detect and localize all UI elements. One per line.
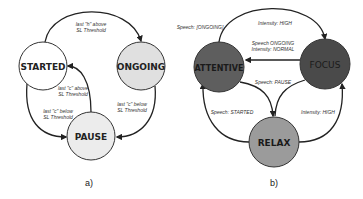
caption-a: a) — [85, 178, 93, 188]
svg-text:RELAX: RELAX — [258, 138, 291, 148]
svg-text:ONGOING: ONGOING — [117, 62, 166, 72]
node-started: STARTED — [19, 42, 67, 90]
label-focus-to-attentive: Speech ONGOINGIntensity: NORMAL — [252, 40, 295, 52]
label-self-attentive: Speech: [ONGOING] — [177, 24, 224, 30]
label-started-to-ongoing: last "h" aboveSL Threshold — [76, 21, 107, 33]
node-attentive: ATTENTIVE — [194, 42, 244, 92]
diagram-b: Speech: [ONGOING] Intensity: HIGH Speech… — [177, 9, 350, 188]
node-ongoing: ONGOING — [117, 42, 166, 90]
node-pause: PAUSE — [67, 112, 115, 160]
label-to-relax: Speech: PAUSE — [255, 79, 292, 85]
svg-text:FOCUS: FOCUS — [310, 60, 341, 70]
svg-text:ATTENTIVE: ATTENTIVE — [195, 64, 244, 73]
diagram-a: last "h" aboveSL Threshold last "c" abov… — [19, 12, 165, 188]
label-relax-to-attentive: Speech: STARTED — [211, 109, 254, 115]
label-relax-to-focus: Intensity: HIGH — [301, 109, 335, 115]
label-attentive-to-focus: Intensity: HIGH — [258, 20, 292, 26]
caption-b: b) — [270, 178, 278, 188]
node-focus: FOCUS — [300, 39, 350, 89]
node-relax: RELAX — [249, 117, 299, 167]
state-diagrams: last "h" aboveSL Threshold last "c" abov… — [0, 0, 363, 199]
label-pause-to-started: last "c" aboveSL Threshold — [58, 85, 88, 97]
svg-text:PAUSE: PAUSE — [75, 132, 107, 142]
label-started-to-pause: last "c" belowSL Threshold — [43, 108, 73, 120]
label-ongoing-to-pause: last "c" belowSL Threshold — [117, 101, 147, 113]
svg-text:STARTED: STARTED — [20, 62, 65, 72]
